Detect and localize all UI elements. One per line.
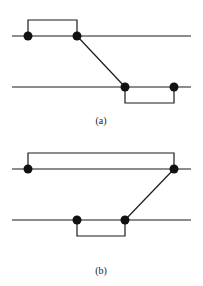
panel-b <box>12 153 191 236</box>
node <box>121 216 130 225</box>
panel-b-nodes <box>24 165 179 225</box>
node <box>24 165 33 174</box>
node <box>170 165 179 174</box>
panel-a-label: (a) <box>95 115 106 127</box>
node <box>121 83 130 92</box>
diagonal-connector <box>77 36 125 87</box>
diagonal-connector <box>125 169 174 220</box>
node <box>170 83 179 92</box>
node <box>73 32 82 41</box>
node <box>73 216 82 225</box>
node <box>24 32 33 41</box>
upper-bracket <box>28 20 77 36</box>
upper-bracket <box>28 153 174 169</box>
panel-a <box>12 20 191 103</box>
lower-bracket <box>125 87 174 103</box>
panel-b-label: (b) <box>95 265 107 277</box>
diagram-canvas: (a) (b) <box>0 0 203 286</box>
lower-bracket <box>77 220 125 236</box>
